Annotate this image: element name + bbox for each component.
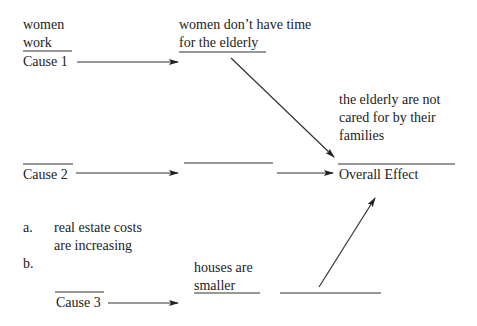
cause3-label: Cause 3 <box>56 294 101 312</box>
effect-text-line2: cared for by their <box>339 109 436 127</box>
cause3-list-item-a-line1: real estate costs <box>54 219 142 237</box>
cause1-result-line2: for the elderly <box>179 34 258 52</box>
cause1-to-effect-arrow <box>231 58 334 157</box>
cause1-text-line2: work <box>23 34 52 52</box>
effect-text-line1: the elderly are not <box>339 91 440 109</box>
cause1-result-line1: women don’t have time <box>179 16 311 34</box>
cause3-list-marker-a: a. <box>23 219 33 237</box>
cause3-list-marker-b: b. <box>23 255 34 273</box>
cause3-to-effect-arrow <box>319 198 375 287</box>
cause3-result-line2: smaller <box>194 277 235 295</box>
cause1-text-line1: women <box>23 16 64 34</box>
effect-text-line3: families <box>339 127 384 145</box>
cause3-list-item-a-line2: are increasing <box>54 237 132 255</box>
cause2-label: Cause 2 <box>23 166 68 184</box>
cause3-result-line1: houses are <box>194 259 253 277</box>
cause1-label: Cause 1 <box>23 53 68 71</box>
effect-label: Overall Effect <box>339 166 418 184</box>
